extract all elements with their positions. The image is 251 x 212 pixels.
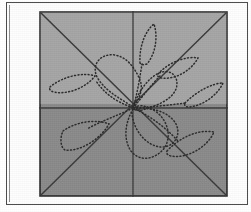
fabric-block	[39, 11, 228, 197]
figure-root: Quilt block placement guide Gray square …	[0, 0, 251, 212]
block-diagram	[39, 11, 228, 197]
